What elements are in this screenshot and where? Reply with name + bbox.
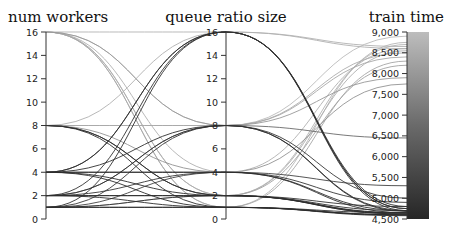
tick-label: 12 [26,73,38,84]
tick-label: 6 [212,143,218,154]
tick-label: 10 [206,97,218,108]
tick-label: 10 [26,97,38,108]
tick-label: 0 [32,214,38,225]
tick-label: 6 [32,143,38,154]
axis-title-train-time: train time [369,8,444,26]
tick-label: 12 [206,73,218,84]
axis-title-queue-ratio-size: queue ratio size [165,8,287,26]
tick-label: 9,000 [372,27,399,38]
tick-label: 0 [212,214,218,225]
tick-label: 7,500 [372,89,399,100]
tick-label: 7,000 [372,110,399,121]
tick-label: 5,500 [372,172,399,183]
axis-title-num-workers: num workers [8,8,108,26]
colorbar [407,32,429,219]
tick-label: 4,500 [372,214,399,225]
tick-label: 5,000 [372,193,399,204]
tick-label: 6,000 [372,151,399,162]
tick-label: 2 [32,190,38,201]
tick-label: 16 [206,27,218,38]
tick-label: 2 [212,190,218,201]
tick-label: 4 [32,167,38,178]
tick-label: 8 [212,120,218,131]
tick-label: 8,000 [372,68,399,79]
tick-label: 8 [32,120,38,131]
parallel-coordinates-chart: 024681012141602468101214164,5005,0005,50… [0,0,449,236]
tick-label: 8,500 [372,47,399,58]
tick-label: 6,500 [372,130,399,141]
tick-label: 16 [26,27,38,38]
tick-label: 14 [26,50,38,61]
tick-label: 14 [206,50,218,61]
tick-label: 4 [212,167,218,178]
